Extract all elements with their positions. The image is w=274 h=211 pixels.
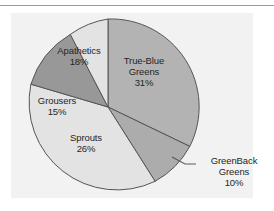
slice-label-line1: Grousers	[26, 95, 88, 106]
slice-label-line1: Sprouts	[55, 132, 117, 143]
slice-label-percent: 31%	[113, 77, 175, 88]
slice-label-percent: 10%	[198, 177, 270, 188]
slice-label-line1: Apathetics	[48, 45, 110, 56]
slice-label-greenback-greens: GreenBack Greens 10%	[198, 155, 270, 188]
slice-label-line1: GreenBack	[198, 155, 270, 166]
slice-label-true-blue-greens: True-Blue Greens 31%	[113, 55, 175, 88]
slice-label-sprouts: Sprouts 26%	[55, 132, 117, 154]
slice-label-percent: 18%	[48, 56, 110, 67]
slice-label-apathetics: Apathetics 18%	[48, 45, 110, 67]
slice-label-line2: Greens	[113, 66, 175, 77]
pie-chart: True-Blue Greens 31% Apathetics 18% Grou…	[0, 0, 274, 211]
slice-label-grousers: Grousers 15%	[26, 95, 88, 117]
slice-label-line2: Greens	[198, 166, 270, 177]
figure-root: True-Blue Greens 31% Apathetics 18% Grou…	[0, 0, 274, 211]
slice-label-percent: 15%	[26, 106, 88, 117]
slice-label-percent: 26%	[55, 143, 117, 154]
slice-label-line1: True-Blue	[113, 55, 175, 66]
